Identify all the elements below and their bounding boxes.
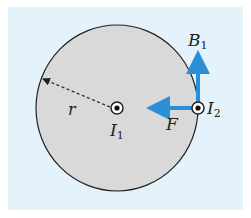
diagram: r I1 I2 B1 F (0, 0, 251, 218)
current-i1-symbol (111, 102, 123, 114)
diagram-canvas: r I1 I2 B1 F (0, 0, 251, 218)
current-i2-symbol (192, 102, 204, 114)
radius-label: r (68, 100, 77, 119)
force-label: F (165, 114, 179, 134)
